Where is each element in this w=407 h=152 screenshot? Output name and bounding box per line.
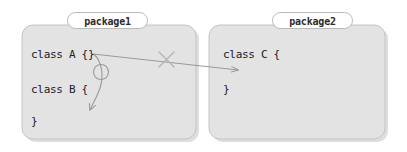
package2-code-line-1: class C {	[223, 48, 280, 61]
package1-box[interactable]	[22, 25, 196, 139]
diagram-canvas: package1 package2 class A {} class B { }…	[0, 0, 407, 152]
package1-label[interactable]: package1	[67, 12, 148, 29]
package2-label[interactable]: package2	[272, 12, 353, 29]
package1-code-line-3: }	[31, 115, 37, 128]
package2-code-line-2: }	[223, 83, 229, 96]
package1-code-line-1: class A {}	[31, 48, 94, 61]
package1-code-line-2: class B {	[31, 83, 88, 96]
package2-box[interactable]	[209, 25, 385, 139]
